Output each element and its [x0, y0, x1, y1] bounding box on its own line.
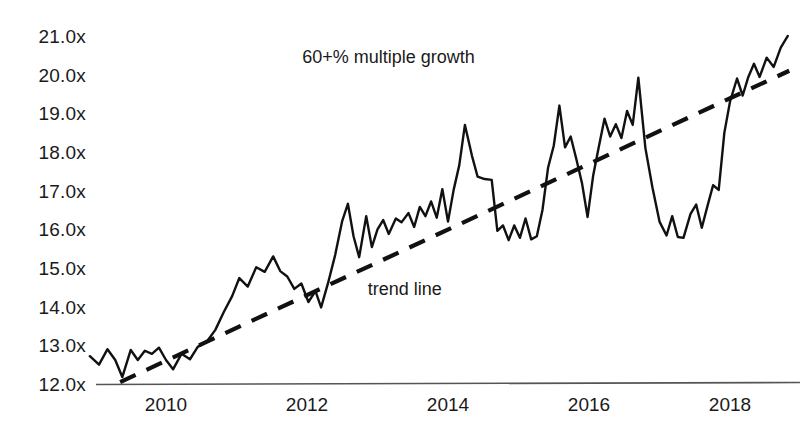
x-axis-tick-2012: 2012	[262, 395, 352, 414]
y-axis-tick-18: 18.0x	[8, 143, 86, 162]
growth-annotation: 60+% multiple growth	[302, 48, 475, 66]
y-axis-tick-19: 19.0x	[8, 104, 86, 123]
y-axis-tick-21: 21.0x	[8, 27, 86, 46]
chart-container: 21.0x20.0x19.0x18.0x17.0x16.0x15.0x14.0x…	[0, 0, 802, 440]
x-axis-tick-2014: 2014	[403, 395, 493, 414]
y-axis-tick-16: 16.0x	[8, 220, 86, 239]
x-axis-tick-2016: 2016	[544, 395, 634, 414]
x-axis-tick-2010: 2010	[121, 395, 211, 414]
x-axis-tick-2018: 2018	[685, 395, 775, 414]
y-axis-tick-17: 17.0x	[8, 182, 86, 201]
y-axis-tick-15: 15.0x	[8, 259, 86, 278]
y-axis-tick-13: 13.0x	[8, 336, 86, 355]
x-axis-line	[96, 383, 800, 385]
trendline-annotation: trend line	[368, 280, 442, 298]
trend-line	[120, 71, 789, 382]
y-axis-tick-20: 20.0x	[8, 66, 86, 85]
y-axis-tick-12: 12.0x	[8, 375, 86, 394]
y-axis-tick-14: 14.0x	[8, 298, 86, 317]
series-line-multiple	[90, 36, 788, 377]
